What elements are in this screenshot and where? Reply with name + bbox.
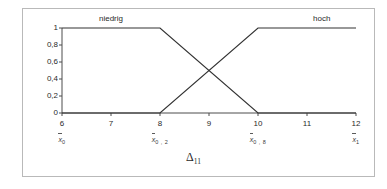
series-label-hoch: hoch bbox=[292, 14, 352, 23]
y-tick-label: 0,2 bbox=[36, 92, 58, 100]
series-lines bbox=[62, 28, 356, 113]
x-secondary-label: x0 , 2 bbox=[138, 135, 182, 147]
x-tick-label: 11 bbox=[292, 119, 322, 128]
x-tick-label: 7 bbox=[96, 119, 126, 128]
x-secondary-label: x0 bbox=[40, 135, 84, 147]
x-tick-label: 6 bbox=[47, 119, 77, 128]
x-tick-label: 10 bbox=[243, 119, 273, 128]
subscript: 0 , 8 bbox=[253, 139, 266, 145]
overbar-symbol: x bbox=[250, 135, 254, 144]
y-tick-label: 0 bbox=[36, 109, 58, 117]
plot-svg bbox=[62, 28, 356, 113]
y-tick-label: 0,6 bbox=[36, 58, 58, 66]
x-axis-title: Δ11 bbox=[0, 150, 387, 166]
y-tick-label: 1 bbox=[36, 24, 58, 32]
overbar-symbol: x bbox=[152, 135, 156, 144]
overbar-symbol: x bbox=[58, 135, 62, 144]
series-label-niedrig: niedrig bbox=[81, 14, 141, 23]
plot-area bbox=[62, 28, 356, 113]
x-tick-label: 12 bbox=[341, 119, 371, 128]
x-axis-title-subscript: 11 bbox=[194, 157, 201, 166]
x-axis-title-symbol: Δ bbox=[186, 150, 194, 164]
x-secondary-label: x0 , 8 bbox=[236, 135, 280, 147]
y-tick-label: 0,8 bbox=[36, 41, 58, 49]
subscript: 0 bbox=[62, 139, 66, 145]
y-tick-label: 0,4 bbox=[36, 75, 58, 83]
overbar-symbol: x bbox=[352, 135, 356, 144]
series-line-hoch bbox=[62, 28, 356, 113]
x-tick-label: 9 bbox=[194, 119, 224, 128]
subscript: 1 bbox=[356, 139, 360, 145]
subscript: 0 , 2 bbox=[155, 139, 168, 145]
fuzzy-membership-chart: Zugehörigkeitsgrad 10,80,60,40,20 niedri… bbox=[0, 0, 387, 189]
x-tick-label: 8 bbox=[145, 119, 175, 128]
x-secondary-label: x1 bbox=[334, 135, 378, 147]
